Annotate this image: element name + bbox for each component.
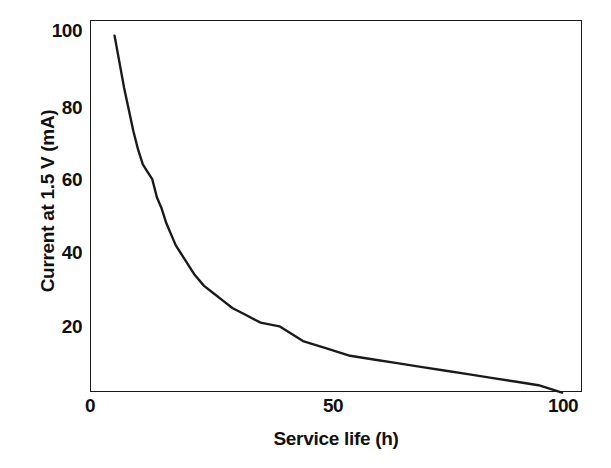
x-axis-title: Service life (h) (90, 428, 582, 450)
y-axis-title: Current at 1.5 V (mA) (37, 71, 59, 331)
x-tick-label-100: 100 (533, 395, 593, 417)
y-tick-label-100: 100 (24, 20, 82, 42)
plot-area (90, 20, 582, 392)
x-tick-label-0: 0 (60, 395, 120, 417)
x-tick-label-50: 50 (303, 395, 363, 417)
data-curve (91, 21, 581, 391)
figure: 100 80 60 40 20 0 50 100 Current at 1.5 … (0, 0, 611, 468)
